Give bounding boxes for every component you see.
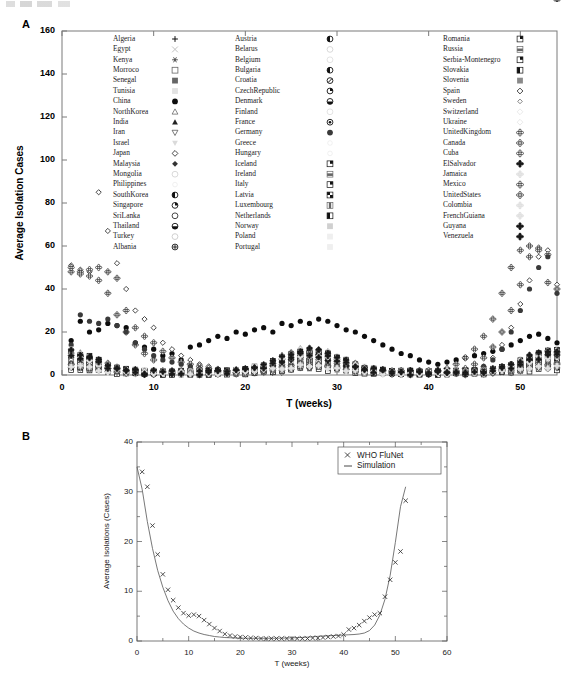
panel-a-xtick-label: 30	[332, 382, 342, 392]
data-point	[407, 369, 409, 371]
data-point	[171, 371, 173, 373]
data-point	[384, 369, 386, 371]
data-point	[100, 266, 102, 268]
legend-marker-square-quadrant	[327, 161, 333, 167]
legend-marker-icon	[519, 238, 521, 240]
data-point	[527, 354, 529, 356]
data-point	[200, 374, 202, 376]
marker-x-icon	[217, 629, 221, 633]
data-point	[512, 266, 514, 268]
data-point	[512, 309, 514, 311]
legend-marker-square-hband	[517, 47, 523, 53]
legend-marker-icon	[327, 234, 333, 240]
marker-x-icon	[186, 613, 190, 617]
data-point	[114, 261, 119, 266]
legend-marker-circle-light	[172, 234, 178, 240]
data-point	[327, 361, 329, 363]
legend-marker-icon	[519, 223, 521, 225]
legend-marker-circle-cross	[172, 244, 178, 250]
data-point	[538, 356, 540, 358]
data-point	[517, 364, 519, 366]
data-point	[508, 363, 510, 365]
legend-marker-cross	[172, 47, 178, 53]
legend-marker-icon	[172, 151, 178, 157]
data-point	[310, 355, 312, 357]
data-point	[281, 366, 283, 368]
data-point	[105, 368, 107, 370]
data-point	[318, 347, 320, 349]
data-point	[528, 363, 530, 365]
data-point	[261, 367, 263, 369]
data-point	[481, 371, 483, 373]
marker-x-icon	[212, 626, 216, 630]
data-point	[536, 352, 538, 354]
data-point	[471, 348, 473, 350]
data-point	[556, 369, 558, 371]
panel-b-legend: WHO FluNet Simulation	[338, 447, 441, 474]
data-point	[439, 369, 441, 371]
data-point	[547, 283, 549, 285]
data-point	[519, 247, 521, 249]
data-point	[308, 356, 310, 358]
data-point	[155, 359, 157, 361]
legend-marker-circle-quarter2	[327, 88, 333, 94]
data-point	[217, 375, 219, 377]
legend-marker-icon	[327, 130, 333, 136]
data-point	[483, 333, 485, 335]
legend-marker-icon	[172, 67, 178, 73]
legend-marker-circle-faint	[172, 171, 178, 177]
data-point	[279, 361, 281, 363]
marker-x-icon	[181, 611, 185, 615]
data-point	[125, 372, 127, 374]
data-point	[409, 372, 411, 374]
legend-label: UnitedStates	[443, 190, 481, 199]
data-point	[145, 335, 147, 337]
legend-marker-square-open	[172, 67, 178, 73]
data-point	[336, 369, 338, 371]
data-point	[299, 362, 301, 364]
data-point	[145, 374, 147, 376]
panel-a-xlabel: T (weeks)	[286, 398, 332, 409]
data-point	[265, 364, 267, 366]
legend-marker-clover-filled	[517, 160, 524, 167]
panel-a-y-axis: 020406080100120140160 Average Isolation …	[14, 25, 67, 379]
legend-marker-icon	[521, 173, 523, 175]
data-point	[180, 359, 182, 361]
data-point	[310, 360, 312, 362]
data-point	[485, 357, 487, 359]
data-point	[68, 271, 70, 273]
legend-marker-circle-ghost2	[328, 151, 333, 156]
legend-marker-icon	[328, 151, 333, 156]
data-point	[411, 369, 413, 371]
data-point	[180, 371, 182, 373]
legend-label: CzechRepublic	[235, 86, 281, 95]
legend-label: Russia	[443, 44, 463, 53]
legend-marker-icon	[517, 49, 523, 52]
data-point	[299, 366, 301, 368]
legend-marker-square-pale	[327, 223, 333, 229]
data-point	[299, 368, 301, 370]
data-point	[483, 355, 485, 357]
legend-label: Japan	[113, 148, 130, 157]
data-point	[327, 366, 329, 368]
data-point	[105, 292, 107, 294]
data-point	[526, 256, 528, 258]
data-point	[320, 349, 322, 351]
legend-marker-icon	[519, 150, 521, 152]
data-point	[325, 319, 330, 324]
panel-b-ytick-label: 30	[124, 487, 133, 496]
legend-marker-icon	[517, 109, 523, 115]
data-point	[418, 373, 420, 375]
legend-label: France	[235, 117, 256, 126]
data-point	[107, 373, 109, 375]
data-point	[297, 352, 299, 354]
legend-marker-icon	[172, 109, 178, 114]
data-point	[483, 369, 485, 371]
data-point	[391, 372, 393, 374]
data-point	[527, 368, 529, 370]
legend-label: Greece	[235, 138, 257, 147]
data-point	[327, 364, 329, 366]
data-point	[519, 251, 521, 253]
data-point	[153, 361, 155, 363]
data-point	[538, 363, 540, 365]
